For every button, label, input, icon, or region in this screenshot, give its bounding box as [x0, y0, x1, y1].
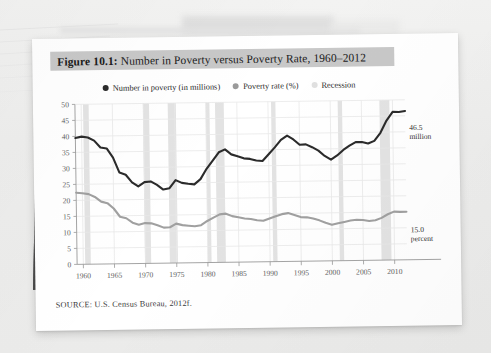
gridline-y-5 — [77, 244, 407, 249]
ytick-label-35: 35 — [62, 148, 70, 157]
legend-label-poverty-rate: Poverty rate (%) — [243, 81, 298, 91]
xtick-label-1965: 1965 — [107, 271, 123, 280]
gridline-y-30 — [76, 164, 406, 169]
gridline-y-40 — [75, 132, 405, 137]
xtick-label-1995: 1995 — [294, 268, 310, 277]
ytick-label-30: 30 — [62, 164, 70, 173]
gridline-y-35 — [76, 148, 406, 153]
legend-label-number-in-poverty: Number in poverty (in millions) — [113, 82, 221, 92]
legend-label-recession: Recession — [321, 80, 355, 89]
poverty-line-chart: 0510152025303540455019601965197019751980… — [33, 91, 462, 297]
ytick-label-45: 45 — [61, 116, 69, 125]
xtick-label-2000: 2000 — [325, 268, 341, 277]
series-line-poverty-rate — [76, 188, 406, 229]
gridline-y-50 — [75, 100, 405, 105]
figure-title-text: Number in Poverty versus Poverty Rate, 1… — [121, 51, 366, 66]
xtick-label-2010: 2010 — [387, 267, 403, 276]
ytick-label-0: 0 — [67, 260, 71, 269]
page-title: Figure 10.1: Number in Poverty versus Po… — [50, 51, 366, 67]
figure-label: Figure 10.1: — [57, 54, 118, 67]
legend-dot-poverty-rate — [233, 83, 239, 89]
annotation-number-in-poverty-unit: million — [409, 132, 431, 141]
background-blur-band-tertiary — [330, 20, 400, 34]
xtick-label-1985: 1985 — [232, 269, 248, 278]
legend-dot-recession — [311, 82, 317, 88]
gridline-y-20 — [76, 196, 406, 201]
gridline-y-10 — [77, 228, 407, 233]
figure-page: Figure 10.1: Number in Poverty versus Po… — [32, 33, 462, 331]
gridline-y-25 — [76, 180, 406, 185]
legend-dot-number-in-poverty — [103, 85, 109, 91]
ytick-label-25: 25 — [62, 180, 70, 189]
chart-plot-area: 0510152025303540455019601965197019751980… — [33, 91, 462, 297]
ytick-label-10: 10 — [63, 228, 71, 237]
legend-item-recession: Recession — [311, 80, 355, 90]
xtick-label-1960: 1960 — [76, 271, 92, 280]
ytick-label-40: 40 — [62, 132, 70, 141]
xtick-label-1970: 1970 — [138, 270, 154, 279]
annotation-poverty-rate-unit: percent — [411, 234, 434, 243]
source-note: SOURCE: U.S. Census Bureau, 2012f. — [56, 299, 192, 310]
gridline-y-45 — [75, 116, 405, 121]
annotation-poverty-rate-value: 15.0 — [411, 225, 425, 234]
ytick-label-20: 20 — [63, 196, 71, 205]
series-line-number-in-poverty — [75, 111, 406, 191]
ytick-label-15: 15 — [63, 212, 71, 221]
legend-item-poverty-rate: Poverty rate (%) — [233, 81, 298, 91]
gridline-y-15 — [76, 212, 406, 217]
xtick-label-1980: 1980 — [200, 269, 216, 278]
xtick-label-2005: 2005 — [356, 267, 372, 276]
figure-title-bar: Figure 10.1: Number in Poverty versus Po… — [50, 47, 394, 71]
x-axis — [77, 259, 441, 264]
xtick-label-1975: 1975 — [169, 270, 185, 279]
xtick-label-1990: 1990 — [263, 269, 279, 278]
ytick-label-50: 50 — [61, 100, 69, 109]
legend-item-number-in-poverty: Number in poverty (in millions) — [103, 82, 221, 93]
ytick-label-5: 5 — [67, 244, 71, 253]
annotation-number-in-poverty-value: 46.5 — [409, 123, 423, 132]
